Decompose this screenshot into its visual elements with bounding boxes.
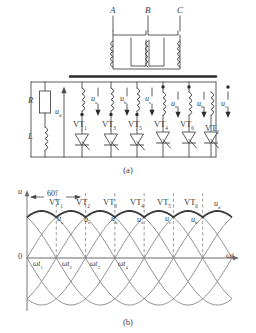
conduction-label-4: VT4 — [130, 198, 144, 209]
origin-label: 0 — [18, 252, 22, 261]
phase-annotation-6: ub′ — [191, 215, 199, 226]
v1-sub: a — [95, 100, 97, 105]
load-branch — [40, 82, 51, 157]
c5-base: VT — [157, 197, 168, 207]
c4-sub: 4 — [141, 203, 144, 209]
p4-prime: ′ — [143, 214, 144, 219]
thyristor-label-VT6: VT6 — [180, 120, 194, 131]
caption-b: (b) — [0, 318, 256, 327]
branch-voltage-3: uc — [145, 95, 151, 106]
conduction-label-3: VT3 — [103, 198, 117, 209]
circuit-svg — [0, 0, 256, 180]
p2-sub: c — [88, 220, 90, 225]
x4-sub: 4 — [125, 265, 127, 270]
t6-sub: 2 — [216, 129, 219, 135]
caption-a: (a) — [0, 166, 256, 175]
p4-sub: a — [141, 220, 143, 225]
x1-sub: 1 — [40, 265, 42, 270]
v3-sub: c — [149, 100, 151, 105]
inductor-label-L: L — [28, 132, 33, 141]
p7-sub: d — [218, 205, 220, 210]
conduction-label-2: VT2 — [76, 198, 90, 209]
v6-prime: ′ — [227, 98, 228, 103]
c2-base: VT — [76, 197, 87, 207]
transformer-terminal-B: B — [145, 6, 151, 15]
t1-sub: 1 — [84, 125, 87, 131]
thyristor-label-VT2: VT2 — [205, 124, 219, 135]
x-tick-3: ωt3 — [90, 260, 100, 270]
phase-annotation-4: ua′ — [137, 215, 144, 226]
branch-voltage-4: ua′ — [171, 99, 178, 110]
t3-base: VT — [128, 119, 139, 129]
phase-annotation-1: ua — [57, 215, 63, 226]
branch-voltage-5: ub′ — [197, 99, 205, 110]
t1-base: VT — [73, 119, 84, 129]
phase-annotation-ud: ud — [214, 200, 220, 211]
v5-sub: b — [201, 104, 203, 109]
c2-sub: 2 — [87, 203, 90, 209]
c1-sub: 1 — [60, 203, 63, 209]
t3-sub: 5 — [139, 125, 142, 131]
c3-base: VT — [103, 197, 114, 207]
y-axis-label: u — [18, 188, 22, 196]
x3-sub: 3 — [97, 265, 99, 270]
v4-prime: ′ — [177, 98, 178, 103]
c5-sub: 5 — [168, 203, 171, 209]
t5-base: VT — [180, 119, 191, 129]
c6-base: VT — [184, 197, 195, 207]
c6-sub: 6 — [195, 203, 198, 209]
c3-sub: 3 — [114, 203, 117, 209]
branch-voltage-2: ub — [120, 95, 126, 106]
y-axis-arrow — [25, 190, 30, 196]
branch-voltage-1: ua — [91, 95, 97, 106]
p6-prime: ′ — [197, 214, 198, 219]
v4-sub: a — [175, 104, 177, 109]
c4-base: VT — [130, 197, 141, 207]
x-tick-1: ωt1 — [33, 260, 43, 270]
resistor-R — [40, 91, 51, 113]
ud-sub: d — [59, 113, 61, 118]
branch-voltage-6: uc′ — [221, 99, 228, 110]
phase-annotation-3: ub — [111, 215, 117, 226]
x-tick-4: ωt4 — [118, 260, 128, 270]
inductor-L — [45, 127, 48, 150]
t5-sub: 6 — [191, 125, 194, 131]
p3-sub: b — [115, 220, 117, 225]
branch-6 — [205, 85, 231, 157]
t2-base: VT — [102, 119, 113, 129]
t4-sub: 4 — [165, 125, 168, 131]
ud-arrow — [61, 87, 66, 157]
t4-base: VT — [154, 119, 165, 129]
v6-sub: c — [225, 104, 227, 109]
transformer-primary — [111, 16, 181, 69]
figure-six-phase-rectifier: A B C R L ud ua ub uc ua′ ub′ uc′ VT1 VT… — [0, 0, 256, 333]
output-voltage-label: ud — [55, 108, 61, 119]
transformer-terminal-A: A — [110, 6, 116, 15]
phase-annotation-2: uc′ — [84, 215, 91, 226]
x2-sub: 2 — [69, 265, 71, 270]
c1-base: VT — [49, 197, 60, 207]
t6-base: VT — [205, 123, 216, 133]
p2-prime: ′ — [90, 214, 91, 219]
thyristor-label-VT3: VT3 — [102, 120, 116, 131]
p6-sub: b — [195, 220, 197, 225]
conduction-label-5: VT5 — [157, 198, 171, 209]
v2-sub: b — [124, 100, 126, 105]
thyristor-label-VT4: VT4 — [154, 120, 168, 131]
conduction-label-6: VT6 — [184, 198, 198, 209]
thyristor-label-VT1: VT1 — [73, 120, 87, 131]
p1-sub: a — [61, 220, 63, 225]
p5-sub: c — [169, 220, 171, 225]
thyristor-label-VT5: VT5 — [128, 120, 142, 131]
v5-prime: ′ — [203, 98, 204, 103]
x-tick-2: ωt2 — [62, 260, 72, 270]
transformer-terminal-C: C — [177, 6, 183, 15]
phase-annotation-5: uc — [165, 215, 171, 226]
conduction-label-1: VT1 — [49, 198, 63, 209]
x-axis-label: ωt — [226, 252, 234, 260]
t2-sub: 3 — [113, 125, 116, 131]
resistor-label-R: R — [28, 96, 33, 105]
